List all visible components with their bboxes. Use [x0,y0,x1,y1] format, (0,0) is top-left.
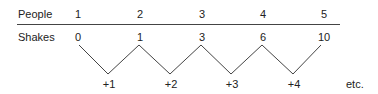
continuation-label: etc. [346,78,364,90]
diagram-lines [0,0,378,94]
difference-zigzag [79,45,321,74]
difference-label-3: +3 [226,78,239,90]
difference-label-2: +2 [165,78,178,90]
difference-label-4: +4 [288,78,301,90]
difference-label-1: +1 [103,78,116,90]
